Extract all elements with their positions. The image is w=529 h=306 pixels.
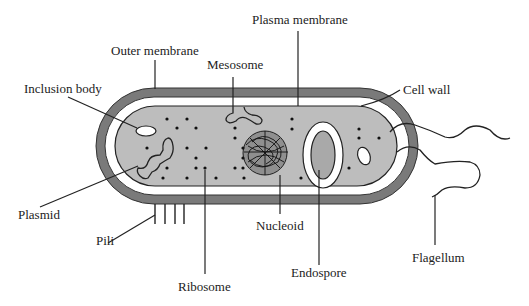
- label-ribosome: Ribosome: [178, 279, 231, 294]
- label-pili: Pili: [96, 233, 114, 248]
- label-flagellum: Flagellum: [412, 250, 465, 265]
- label-outer-membrane: Outer membrane: [111, 43, 199, 58]
- pili: [155, 204, 184, 224]
- label-cell-wall: Cell wall: [403, 82, 451, 97]
- bacterial-cell-diagram: Plasma membrane Outer membrane Mesosome …: [0, 0, 529, 306]
- label-inclusion-body: Inclusion body: [24, 81, 102, 96]
- inclusion-body: [136, 126, 156, 136]
- label-plasma-membrane: Plasma membrane: [252, 12, 348, 27]
- endospore: [311, 131, 335, 179]
- label-plasmid: Plasmid: [18, 207, 60, 222]
- label-endospore: Endospore: [291, 265, 347, 280]
- nucleoid: [243, 131, 288, 175]
- label-mesosome: Mesosome: [207, 57, 264, 72]
- label-nucleoid: Nucleoid: [256, 218, 304, 233]
